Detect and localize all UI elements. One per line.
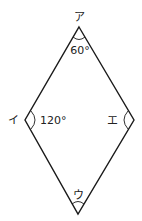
angle-arc-left [31,111,35,129]
angle-arc-top [73,37,85,40]
rhombus-diagram: ア イ ウ エ 60° 120° [0,0,142,221]
angle-value-top: 60° [70,44,90,57]
angle-arc-right [124,111,128,129]
vertex-label-bottom: ウ [73,189,84,202]
vertex-label-top: ア [74,11,85,24]
angle-value-left: 120° [40,114,67,127]
vertex-label-right: エ [107,114,118,127]
vertex-label-left: イ [8,114,19,127]
